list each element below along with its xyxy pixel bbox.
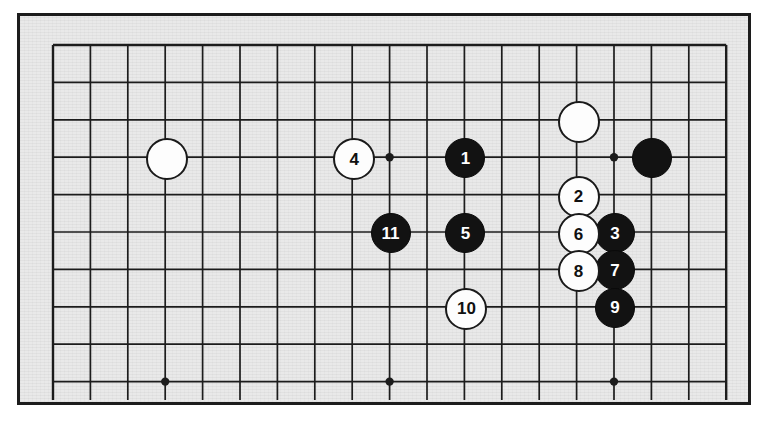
stone-white-plain bbox=[146, 138, 188, 180]
stone-black-5: 5 bbox=[445, 213, 485, 253]
stone-black-9: 9 bbox=[595, 288, 635, 328]
stone-layer: 1234567891011 bbox=[0, 0, 769, 422]
go-diagram-figure: 1234567891011 bbox=[0, 0, 769, 422]
stone-white-10: 10 bbox=[445, 288, 487, 330]
stone-black-3: 3 bbox=[595, 213, 635, 253]
stone-white-6: 6 bbox=[558, 213, 600, 255]
stone-black-1: 1 bbox=[445, 138, 485, 178]
stone-black-11: 11 bbox=[371, 213, 411, 253]
stone-black-7: 7 bbox=[595, 250, 635, 290]
stone-white-8: 8 bbox=[558, 250, 600, 292]
stone-white-4: 4 bbox=[333, 138, 375, 180]
stone-black-plain bbox=[632, 138, 672, 178]
stone-white-plain bbox=[558, 101, 600, 143]
stone-white-2: 2 bbox=[558, 176, 600, 218]
